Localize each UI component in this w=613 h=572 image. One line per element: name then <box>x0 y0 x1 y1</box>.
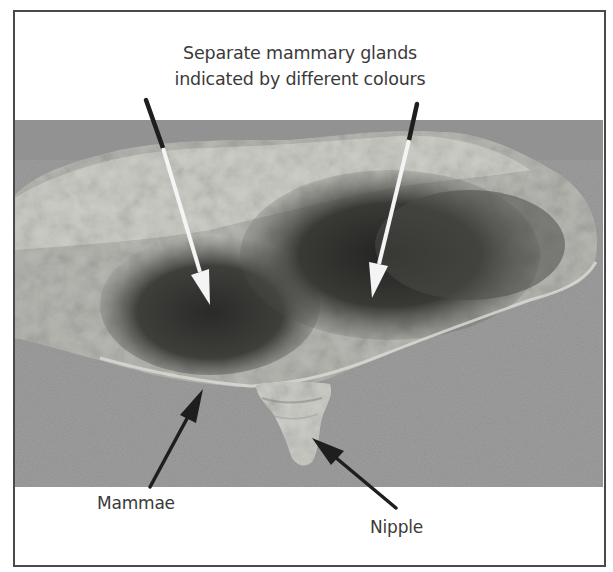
gland-caption: Separate mammary glands indicated by dif… <box>145 40 455 92</box>
nipple-label: Nipple <box>370 514 423 540</box>
gland-caption-line-2: indicated by different colours <box>145 66 455 92</box>
photo-background <box>15 120 603 487</box>
gland-caption-line-1: Separate mammary glands <box>145 40 455 66</box>
mammae-label: Mammae <box>97 490 175 516</box>
